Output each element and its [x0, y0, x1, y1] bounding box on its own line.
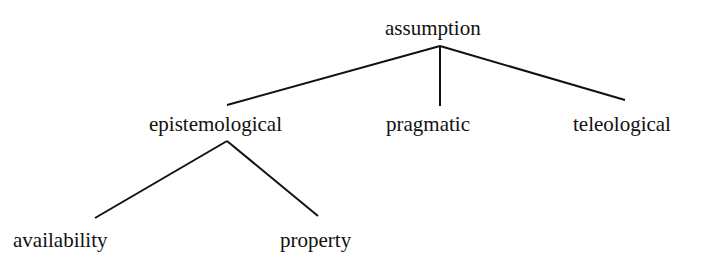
- node-property: property: [280, 228, 351, 252]
- node-pragmatic: pragmatic: [386, 112, 470, 136]
- edge-epistemological-property: [227, 141, 318, 216]
- node-epistemological: epistemological: [149, 112, 282, 136]
- node-availability: availability: [13, 228, 107, 252]
- edge-assumption-epistemological: [227, 46, 440, 105]
- node-assumption: assumption: [385, 16, 481, 40]
- edge-assumption-teleological: [440, 46, 625, 100]
- node-teleological: teleological: [573, 112, 671, 136]
- edge-epistemological-availability: [95, 141, 227, 218]
